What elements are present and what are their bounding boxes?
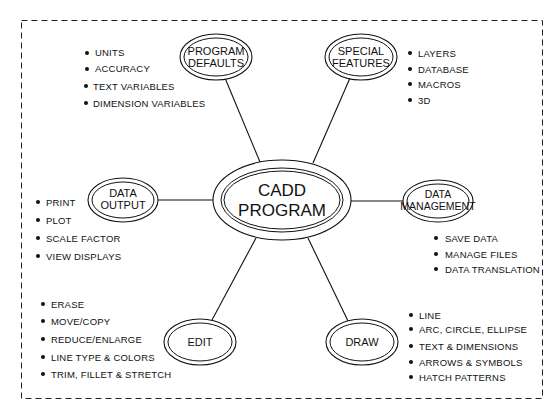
bullet-icon — [36, 200, 40, 204]
list-item: PLOT — [46, 215, 72, 226]
node-label-line2: FEATURES — [332, 57, 390, 69]
bullet-icon — [408, 82, 412, 86]
node-label-line2: MANAGEMENT — [400, 200, 476, 212]
bullet-icon — [36, 218, 40, 222]
list-item: SAVE DATA — [445, 233, 498, 244]
list-item: TEXT VARIABLES — [93, 81, 175, 92]
node-label-line1: SPECIAL — [338, 45, 384, 57]
bullet-icon — [85, 67, 89, 71]
list-item: MOVE/COPY — [51, 316, 111, 327]
list-item: HATCH PATTERNS — [419, 372, 506, 383]
center-title-line2: PROGRAM — [238, 201, 326, 220]
list-special-features: LAYERS DATABASE MACROS 3D — [408, 48, 469, 106]
list-item: LINE — [419, 310, 441, 321]
node-label-line1: DATA — [109, 187, 137, 199]
list-item: MANAGE FILES — [445, 249, 518, 260]
bullet-icon — [41, 302, 45, 306]
bullet-icon — [434, 267, 438, 271]
list-item: 3D — [418, 95, 431, 106]
bullet-icon — [85, 51, 89, 55]
list-item: ARC, CIRCLE, ELLIPSE — [419, 324, 527, 335]
bullet-icon — [408, 98, 412, 102]
node-program-defaults: PROGRAM DEFAULTS — [180, 34, 252, 80]
bullet-icon — [434, 236, 438, 240]
list-item: TRIM, FILLET & STRETCH — [51, 369, 171, 380]
list-item: PRINT — [46, 197, 76, 208]
bullet-icon — [41, 319, 45, 323]
bullet-icon — [408, 51, 412, 55]
center-node-cadd-program: CADD PROGRAM — [213, 160, 351, 240]
list-item: ARROWS & SYMBOLS — [419, 357, 523, 368]
edge-special-features — [313, 78, 350, 163]
node-label: EDIT — [187, 336, 212, 348]
node-label-line1: PROGRAM — [188, 45, 245, 57]
bullet-icon — [408, 67, 412, 71]
list-item: UNITS — [95, 47, 125, 58]
list-item: MACROS — [418, 79, 461, 90]
list-edit: ERASE MOVE/COPY REDUCE/ENLARGE LINE TYPE… — [41, 299, 171, 380]
list-item: VIEW DISPLAYS — [46, 251, 121, 262]
list-data-management: SAVE DATA MANAGE FILES DATA TRANSLATION — [434, 233, 540, 275]
bullet-icon — [41, 337, 45, 341]
node-label-line1: DATA — [425, 188, 451, 200]
edge-draw — [308, 238, 348, 321]
bullet-icon — [409, 344, 413, 348]
bullet-icon — [409, 375, 413, 379]
list-item: LAYERS — [418, 48, 456, 59]
center-title-line1: CADD — [258, 181, 306, 200]
bullet-icon — [409, 327, 413, 331]
bullet-icon — [41, 372, 45, 376]
node-label-line2: DEFAULTS — [188, 57, 244, 69]
edge-edit — [212, 238, 256, 320]
list-item: LINE TYPE & COLORS — [51, 352, 155, 363]
node-data-output: DATA OUTPUT — [88, 178, 158, 222]
node-label: DRAW — [345, 336, 379, 348]
node-label-line2: OUTPUT — [100, 199, 146, 211]
list-draw: LINE ARC, CIRCLE, ELLIPSE TEXT & DIMENSI… — [409, 310, 527, 383]
node-edit: EDIT — [164, 319, 236, 365]
bullet-icon — [409, 313, 413, 317]
list-item: ERASE — [51, 299, 84, 310]
list-item: ACCURACY — [95, 63, 150, 74]
node-data-management: DATA MANAGEMENT — [400, 180, 476, 222]
bullet-icon — [84, 101, 88, 105]
bullet-icon — [36, 254, 40, 258]
edge-program-defaults — [225, 78, 260, 162]
bullet-icon — [434, 252, 438, 256]
list-item: DATABASE — [418, 64, 469, 75]
bullet-icon — [41, 355, 45, 359]
list-item: SCALE FACTOR — [46, 233, 121, 244]
list-item: DATA TRANSLATION — [445, 264, 540, 275]
list-item: REDUCE/ENLARGE — [51, 334, 142, 345]
bullet-icon — [409, 360, 413, 364]
list-item: DIMENSION VARIABLES — [93, 98, 205, 109]
list-item: TEXT & DIMENSIONS — [419, 341, 518, 352]
cadd-concept-diagram: CADD PROGRAM PROGRAM DEFAULTS UNITS ACCU… — [0, 0, 559, 415]
bullet-icon — [36, 236, 40, 240]
bullet-icon — [84, 84, 88, 88]
node-special-features: SPECIAL FEATURES — [325, 34, 397, 80]
node-draw: DRAW — [326, 319, 398, 365]
